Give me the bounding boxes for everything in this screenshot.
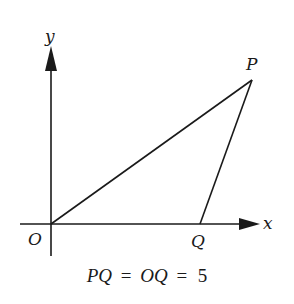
segment-pq bbox=[200, 80, 252, 224]
x-axis-arrow-icon bbox=[239, 218, 260, 230]
caption-pq: PQ bbox=[86, 265, 113, 286]
caption: PQ = OQ = 5 bbox=[86, 265, 208, 286]
point-label-o: O bbox=[28, 229, 42, 249]
caption-oq: OQ bbox=[140, 265, 168, 286]
caption-value: 5 bbox=[198, 265, 208, 286]
y-axis-arrow-icon bbox=[45, 46, 57, 71]
caption-equals-2: = bbox=[176, 265, 187, 286]
caption-equals-1: = bbox=[121, 265, 132, 286]
segment-op bbox=[51, 80, 252, 224]
point-label-p: P bbox=[245, 54, 258, 74]
triangle-diagram: y x O P Q PQ = OQ = 5 bbox=[0, 0, 294, 304]
y-axis-label: y bbox=[44, 26, 55, 46]
x-axis-label: x bbox=[263, 213, 273, 233]
point-label-q: Q bbox=[191, 231, 205, 251]
